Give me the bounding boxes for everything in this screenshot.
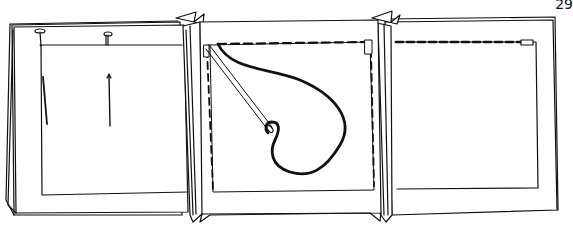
left-fabric-panel (6, 21, 188, 215)
right-fabric-panel (385, 17, 558, 215)
